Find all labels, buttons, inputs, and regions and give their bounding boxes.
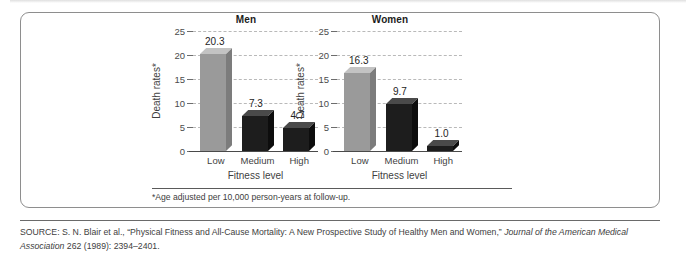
- y-axis-tick-label: 15: [174, 74, 185, 85]
- y-axis-tick-label: 25: [174, 26, 185, 37]
- y-axis-tick-label: 20: [174, 50, 185, 61]
- x-axis-category-medium: Medium: [385, 155, 419, 166]
- bar-medium[interactable]: 7.3: [242, 116, 268, 151]
- y-axis-tick-label: 15: [318, 74, 329, 85]
- source-rule: [20, 220, 660, 221]
- y-axis-tick-label: 10: [174, 98, 185, 109]
- bar-high[interactable]: 1.0: [427, 146, 453, 151]
- bar-value-label: 1.0: [435, 128, 449, 139]
- source-prefix: SOURCE: S. N. Blair et al., “Physical Fi…: [20, 227, 504, 237]
- bar-value-label: 20.3: [205, 36, 224, 47]
- x-axis-title-men: Fitness level: [193, 170, 318, 181]
- bar-value-label: 16.3: [349, 55, 368, 66]
- y-axis-tick: [331, 79, 337, 80]
- y-axis-tick: [331, 127, 337, 128]
- y-axis-tick: [187, 79, 193, 80]
- bar-low[interactable]: 20.3: [200, 54, 226, 151]
- y-axis-tick: [331, 103, 337, 104]
- clipped-rule-top: [10, 0, 686, 3]
- x-axis-category-low: Low: [207, 155, 224, 166]
- chart-title-women: Women: [315, 14, 465, 25]
- y-axis-tick: [187, 127, 193, 128]
- bar-front-face: [200, 54, 226, 151]
- y-axis-title-men: Death rates*: [151, 31, 163, 151]
- y-axis-tick-label: 10: [318, 98, 329, 109]
- bar-side-face: [268, 110, 274, 151]
- x-axis-category-low: Low: [351, 155, 368, 166]
- y-axis-tick: [187, 55, 193, 56]
- source-suffix: 262 (1989): 2394–2401.: [64, 241, 159, 251]
- bar-side-face: [370, 67, 376, 151]
- y-axis-tick: [187, 31, 193, 32]
- y-axis-tick: [331, 55, 337, 56]
- plot-area-women: 051015202516.3Low9.7Medium1.0High: [337, 31, 462, 151]
- y-axis-tick-label: 5: [324, 122, 329, 133]
- footnote-rule: [152, 188, 512, 189]
- bar-side-face: [226, 48, 232, 151]
- y-axis-title-women: Death rates*: [295, 31, 307, 151]
- footnote-text: *Age adjusted per 10,000 person-years at…: [152, 192, 552, 202]
- bar-front-face: [344, 73, 370, 151]
- y-axis-tick-label: 5: [180, 122, 185, 133]
- y-axis-tick-label: 0: [180, 146, 185, 157]
- y-axis-tick: [331, 31, 337, 32]
- figure-page: Men 051015202520.3Low7.3Medium4.7High De…: [0, 0, 696, 274]
- bar-front-face: [242, 116, 268, 151]
- bar-value-label: 9.7: [393, 86, 407, 97]
- bar-front-face: [386, 104, 412, 151]
- y-axis-tick-label: 0: [324, 146, 329, 157]
- bar-side-face: [412, 99, 418, 151]
- bar-medium[interactable]: 9.7: [386, 104, 412, 151]
- y-axis-tick: [187, 103, 193, 104]
- chart-panel-women: Women 051015202516.3Low9.7Medium1.0High …: [297, 12, 527, 162]
- bar-value-label: 7.3: [249, 98, 263, 109]
- x-axis-title-women: Fitness level: [337, 170, 462, 181]
- charts-container: Men 051015202520.3Low7.3Medium4.7High De…: [20, 12, 660, 162]
- y-axis-tick-label: 25: [318, 26, 329, 37]
- x-axis-category-medium: Medium: [241, 155, 275, 166]
- source-citation: SOURCE: S. N. Blair et al., “Physical Fi…: [20, 226, 668, 253]
- bar-low[interactable]: 16.3: [344, 73, 370, 151]
- bar-front-face: [427, 146, 453, 151]
- x-axis-category-high: High: [433, 155, 453, 166]
- y-axis-tick-label: 20: [318, 50, 329, 61]
- gridline: [337, 31, 462, 32]
- x-axis-line: [333, 151, 462, 152]
